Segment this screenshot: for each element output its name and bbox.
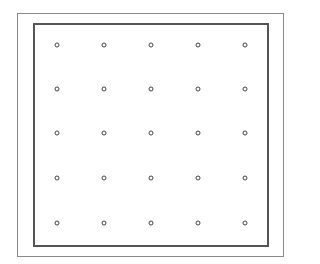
grid-dot [102,176,107,181]
grid-dot [196,176,201,181]
grid-dot [149,176,154,181]
grid-dot [243,43,248,48]
grid-dot [243,176,248,181]
grid-dot [102,43,107,48]
grid-dot [102,131,107,136]
grid-dot [243,221,248,226]
grid-dot [243,131,248,136]
grid-dot [243,87,248,92]
grid-dot [196,221,201,226]
grid-dot [55,176,60,181]
grid-dot [55,131,60,136]
grid-dot [102,221,107,226]
grid-dot [196,87,201,92]
grid-dot [149,87,154,92]
grid-dot [149,43,154,48]
grid-dot [149,131,154,136]
grid-dot [196,43,201,48]
grid-dot [55,87,60,92]
grid-dot [55,43,60,48]
grid-dot [55,221,60,226]
grid-dot [102,87,107,92]
grid-dot [196,131,201,136]
grid-dot [149,221,154,226]
